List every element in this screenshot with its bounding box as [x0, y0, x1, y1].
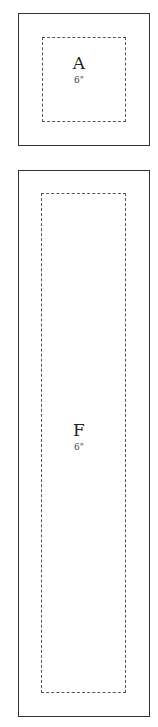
piece-f-label: F 6": [0, 422, 158, 452]
piece-f-size: 6": [0, 443, 158, 452]
piece-a-label: A 6": [0, 55, 158, 85]
piece-f-letter: F: [0, 422, 158, 439]
piece-a-size: 6": [0, 76, 158, 85]
piece-a-letter: A: [0, 55, 158, 72]
